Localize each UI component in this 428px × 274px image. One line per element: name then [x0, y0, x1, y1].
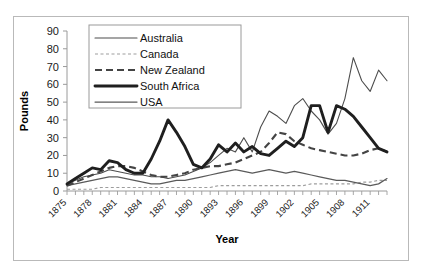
chart-legend: AustraliaCanadaNew ZealandSouth AfricaUS… — [89, 25, 241, 108]
y-tick-label: 20 — [47, 149, 59, 161]
series-line-usa — [67, 170, 387, 186]
y-tick-label: 60 — [47, 78, 59, 90]
y-tick-label: 0 — [53, 185, 59, 197]
x-tick-label: 1890 — [172, 197, 195, 220]
x-tick-label: 1899 — [248, 197, 271, 220]
y-tick-label: 10 — [47, 167, 59, 179]
x-tick-label: 1881 — [96, 197, 119, 220]
y-axis-tick-labels: 0102030405060708090 — [47, 25, 59, 197]
chart-frame: 0102030405060708090 18751878188118841887… — [13, 16, 409, 261]
plot-area: 0102030405060708090 18751878188118841887… — [14, 17, 410, 262]
x-axis-tick-labels: 1875187818811884188718901893189618991902… — [46, 197, 372, 220]
legend-label-usa: USA — [140, 96, 163, 108]
x-tick-label: 1884 — [121, 197, 144, 220]
line-chart: 0102030405060708090 18751878188118841887… — [14, 17, 410, 262]
x-axis-ticks — [67, 191, 387, 195]
x-tick-label: 1896 — [223, 197, 246, 220]
y-axis-title: Pounds — [18, 91, 30, 131]
x-tick-label: 1902 — [273, 197, 296, 220]
x-tick-label: 1905 — [298, 197, 321, 220]
x-tick-label: 1911 — [349, 197, 371, 219]
legend-label-australia: Australia — [140, 32, 184, 44]
y-tick-label: 90 — [47, 25, 59, 37]
y-axis-ticks — [63, 31, 67, 191]
y-tick-label: 40 — [47, 114, 59, 126]
series-line-new-zealand — [67, 132, 387, 185]
x-tick-label: 1908 — [324, 197, 347, 220]
legend-label-south-africa: South Africa — [140, 80, 200, 92]
y-tick-label: 50 — [47, 96, 59, 108]
x-tick-label: 1878 — [71, 197, 94, 220]
x-tick-label: 1875 — [46, 197, 69, 220]
x-tick-label: 1887 — [147, 197, 170, 220]
x-axis-title: Year — [215, 233, 239, 245]
x-tick-label: 1893 — [197, 197, 220, 220]
legend-label-new-zealand: New Zealand — [140, 64, 205, 76]
legend-label-canada: Canada — [140, 48, 179, 60]
y-tick-label: 30 — [47, 132, 59, 144]
y-tick-label: 80 — [47, 43, 59, 55]
series-line-canada — [67, 180, 387, 189]
y-tick-label: 70 — [47, 61, 59, 73]
